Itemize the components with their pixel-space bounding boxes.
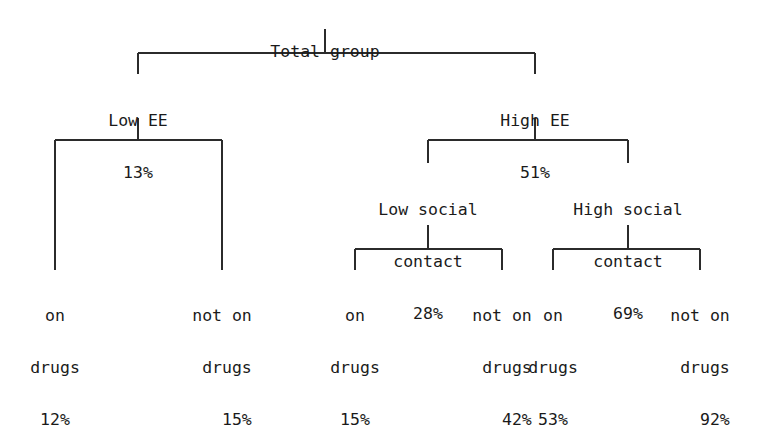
node-low-social-on-drugs-label-line2: drugs	[330, 359, 380, 376]
node-low-ee-on-drugs-label-line1: on	[30, 307, 80, 324]
node-low-ee-not-on-drugs-label-line1: not on	[192, 307, 252, 324]
node-low-social-contact-label-line2: contact	[378, 253, 477, 270]
node-high-social-not-on-drugs-label-line2: drugs	[670, 359, 730, 376]
node-low-social-contact: Low social contact 28%	[378, 166, 477, 357]
node-low-ee-not-on-drugs: not on drugs 15%	[192, 272, 252, 429]
node-high-social-contact: High social contact 69%	[573, 166, 682, 357]
node-high-social-not-on-drugs-label-line1: not on	[670, 307, 730, 324]
node-low-social-contact-label-line1: Low social	[378, 201, 477, 218]
node-high-social-on-drugs-label-line2: drugs	[528, 359, 578, 376]
node-high-social-on-drugs-value: 53%	[528, 411, 578, 428]
node-low-ee: Low EE 13%	[108, 77, 168, 216]
node-low-ee-value: 13%	[108, 164, 168, 181]
node-high-ee-value: 51%	[500, 164, 570, 181]
node-low-ee-on-drugs-value: 12%	[30, 411, 80, 428]
node-high-ee: High EE 51%	[500, 77, 570, 216]
node-low-social-not-on-drugs: not on drugs 42%	[472, 272, 532, 429]
node-low-social-not-on-drugs-label-line1: not on	[472, 307, 532, 324]
node-high-social-on-drugs: on drugs 53%	[528, 272, 578, 429]
node-low-social-on-drugs-value: 15%	[330, 411, 380, 428]
node-high-social-contact-label-line2: contact	[573, 253, 682, 270]
node-high-social-not-on-drugs: not on drugs 92%	[670, 272, 730, 429]
node-total-group: Total group	[270, 8, 379, 95]
node-low-social-on-drugs-label-line1: on	[330, 307, 380, 324]
node-low-social-contact-value: 28%	[378, 305, 477, 322]
node-low-ee-label: Low EE	[108, 112, 168, 129]
node-low-social-not-on-drugs-value: 42%	[472, 411, 532, 428]
node-low-social-on-drugs: on drugs 15%	[330, 272, 380, 429]
node-low-ee-not-on-drugs-value: 15%	[192, 411, 252, 428]
node-high-ee-label: High EE	[500, 112, 570, 129]
node-high-social-contact-value: 69%	[573, 305, 682, 322]
node-high-social-not-on-drugs-value: 92%	[670, 411, 730, 428]
node-low-ee-on-drugs: on drugs 12%	[30, 272, 80, 429]
node-low-ee-on-drugs-label-line2: drugs	[30, 359, 80, 376]
node-high-social-on-drugs-label-line1: on	[528, 307, 578, 324]
node-low-social-not-on-drugs-label-line2: drugs	[472, 359, 532, 376]
node-total-group-label: Total group	[270, 43, 379, 60]
node-high-social-contact-label-line1: High social	[573, 201, 682, 218]
node-low-ee-not-on-drugs-label-line2: drugs	[192, 359, 252, 376]
